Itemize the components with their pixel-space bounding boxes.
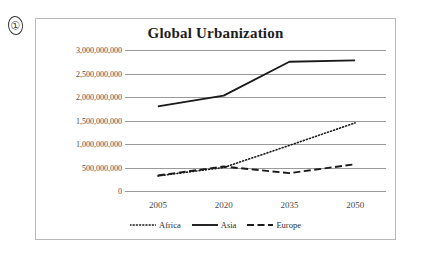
legend-label-africa: Africa: [159, 220, 181, 230]
x-axis-tick-label: 2020: [215, 200, 233, 210]
series-line-europe: [158, 164, 355, 175]
series-line-asia: [158, 60, 355, 106]
legend-item-europe[interactable]: Europe: [247, 220, 301, 230]
x-axis-tick-label: 2035: [280, 200, 298, 210]
screenshot-root: ① Global Urbanization 0500,000,0001,000,…: [0, 0, 421, 255]
legend-label-europe: Europe: [276, 220, 301, 230]
legend-swatch-africa-icon: [130, 221, 156, 229]
chart-legend: AfricaAsiaEurope: [36, 220, 395, 230]
x-axis-tick-label: 2005: [149, 200, 167, 210]
legend-swatch-europe-icon: [247, 221, 273, 229]
figure-number-marker: ①: [7, 15, 24, 36]
legend-item-asia[interactable]: Asia: [192, 220, 237, 230]
legend-item-africa[interactable]: Africa: [130, 220, 181, 230]
legend-label-asia: Asia: [221, 220, 237, 230]
legend-swatch-asia-icon: [192, 221, 218, 229]
chart-container: Global Urbanization 0500,000,0001,000,00…: [35, 18, 396, 240]
x-axis-tick-label: 2050: [346, 200, 364, 210]
